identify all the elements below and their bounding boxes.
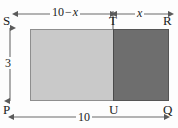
dimension-label-top-right: x [135,7,144,19]
vertex-label-s: S [3,14,10,27]
vertex-label-r: R [163,14,172,27]
vertex-label-u: U [109,103,118,116]
dimension-label-left: 3 [3,57,13,69]
vertex-label-p: P [3,103,10,116]
geometry-figure: 10 − x x 10 3 S T R P U Q [0,0,178,128]
dimension-label-bottom: 10 [76,111,92,123]
dimension-label-top-left: 10 − x [50,6,80,18]
region-dark-trqu [113,29,169,101]
region-light-pstu [30,29,113,101]
vertex-label-t: T [109,14,117,27]
vertex-label-q: Q [163,103,172,116]
